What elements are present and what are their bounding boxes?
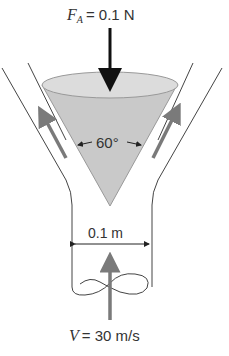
velocity-label: V= 30 m/s [69,327,140,344]
width-label: 0.1 m [88,225,123,241]
force-label: FA= 0.1 N [66,6,135,25]
deflector-cone-diagram: FA= 0.1 N 60° 0.1 m V= 30 m/s [0,0,229,356]
angle-label: 60° [96,134,119,151]
